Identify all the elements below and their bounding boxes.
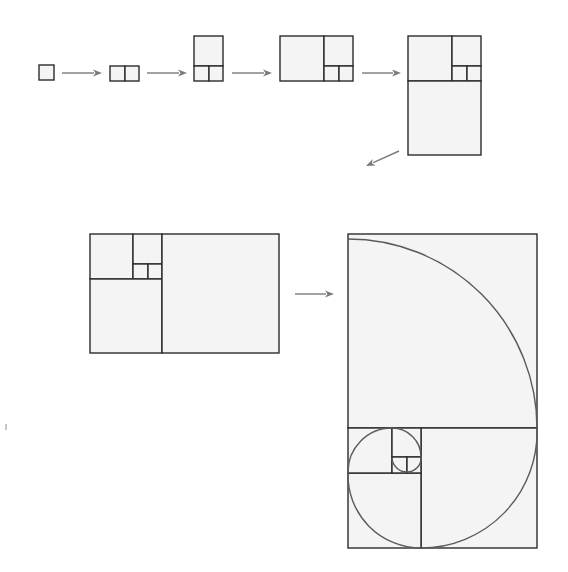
stage-2 bbox=[110, 66, 139, 81]
fibonacci-square bbox=[125, 66, 139, 81]
arrow-4-5-icon bbox=[362, 70, 401, 77]
fibonacci-square bbox=[39, 65, 54, 80]
fibonacci-square bbox=[110, 66, 125, 81]
fibonacci-square bbox=[348, 428, 392, 473]
fibonacci-square bbox=[209, 66, 223, 81]
arrow-1-2-icon bbox=[62, 70, 102, 77]
fibonacci-square bbox=[348, 473, 421, 548]
fibonacci-square bbox=[133, 264, 148, 279]
artifact-layer bbox=[5, 424, 7, 430]
fibonacci-square bbox=[408, 36, 452, 81]
fibonacci-square bbox=[162, 234, 279, 353]
rectangle-stages bbox=[39, 36, 537, 548]
fibonacci-square bbox=[90, 279, 162, 353]
fibonacci-square bbox=[148, 264, 162, 279]
fibonacci-square bbox=[194, 36, 223, 66]
stage-5 bbox=[408, 36, 481, 155]
fibonacci-square bbox=[324, 36, 353, 66]
stray-mark bbox=[5, 424, 7, 430]
fibonacci-square bbox=[339, 66, 353, 81]
fibonacci-square bbox=[467, 66, 481, 81]
fibonacci-square bbox=[348, 234, 537, 428]
stage-3 bbox=[194, 36, 223, 81]
stage-4 bbox=[280, 36, 353, 81]
stage-1 bbox=[39, 65, 54, 80]
fibonacci-diagram bbox=[0, 0, 568, 572]
fibonacci-square bbox=[324, 66, 339, 81]
arrow-5-6-icon bbox=[366, 151, 399, 166]
stage-7 bbox=[348, 234, 537, 548]
fibonacci-square bbox=[90, 234, 133, 279]
fibonacci-square bbox=[452, 66, 467, 81]
fibonacci-square bbox=[421, 428, 537, 548]
fibonacci-square bbox=[452, 36, 481, 66]
arrow-6-7-icon bbox=[295, 291, 334, 298]
arrow-3-4-icon bbox=[232, 70, 272, 77]
fibonacci-square bbox=[280, 36, 324, 81]
stage-6 bbox=[90, 234, 279, 353]
fibonacci-square bbox=[194, 66, 209, 81]
arrow-2-3-icon bbox=[147, 70, 187, 77]
fibonacci-square bbox=[408, 81, 481, 155]
fibonacci-square bbox=[133, 234, 162, 264]
